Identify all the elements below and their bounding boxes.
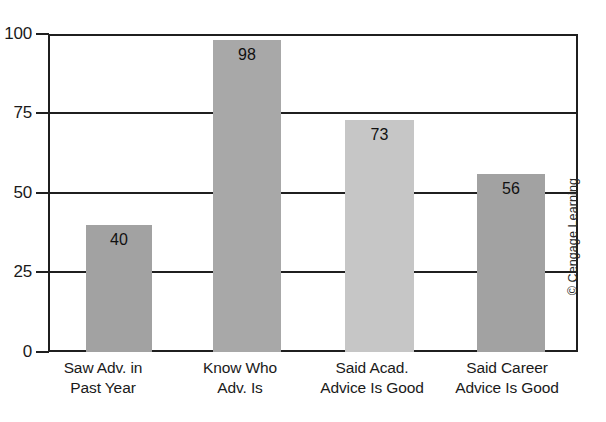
bar-said-career-advice-is-good: 56 [477, 174, 545, 352]
bar-value-label: 56 [477, 181, 545, 197]
x-axis-label-3: Said Career Advice Is Good [440, 358, 574, 398]
bar-said-acad-advice-is-good: 73 [345, 120, 414, 352]
x-axis-label-line2: Past Year [38, 378, 168, 398]
x-axis-label-line1: Know Who [203, 359, 277, 376]
y-axis-label-25: 25 [0, 263, 32, 280]
x-axis-label-line1: Saw Adv. in [64, 359, 143, 376]
x-axis-label-line2: Advice Is Good [305, 378, 439, 398]
bars-layer: 40 98 73 56 [48, 34, 578, 352]
y-axis-label-0: 0 [0, 343, 32, 360]
copyright-credit: © Cengage Learning [566, 178, 580, 295]
bar-chart: 100 75 50 25 0 40 98 73 56 Saw Adv. in P… [0, 0, 606, 422]
bar-know-who-adv-is: 98 [213, 40, 281, 352]
y-axis-label-50: 50 [0, 184, 32, 201]
bar-value-label: 98 [213, 47, 281, 63]
bar-value-label: 73 [345, 127, 414, 143]
x-axis-label-line1: Said Acad. [335, 359, 408, 376]
x-axis-label-line2: Advice Is Good [440, 378, 574, 398]
y-axis-label-75: 75 [0, 104, 32, 121]
x-axis-label-1: Know Who Adv. Is [178, 358, 302, 398]
x-axis-label-line1: Said Career [466, 359, 548, 376]
y-axis-label-100: 100 [0, 25, 32, 42]
bar-saw-adv-in-past-year: 40 [86, 225, 152, 352]
x-axis-label-line2: Adv. Is [178, 378, 302, 398]
x-axis-label-0: Saw Adv. in Past Year [38, 358, 168, 398]
x-axis-label-2: Said Acad. Advice Is Good [305, 358, 439, 398]
bar-value-label: 40 [86, 232, 152, 248]
